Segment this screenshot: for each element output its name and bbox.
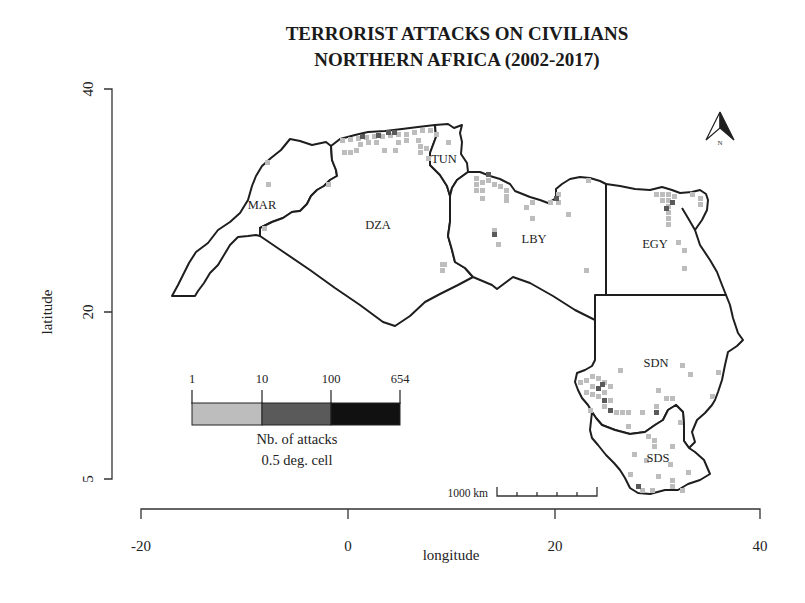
x-tick-0: 0 bbox=[344, 538, 352, 554]
legend-swatch-high bbox=[331, 403, 400, 425]
y-axis-label: latitude bbox=[39, 289, 55, 334]
y-tick-40: 40 bbox=[80, 82, 96, 97]
legend-break-654: 654 bbox=[391, 372, 411, 386]
x-tick-neg20: -20 bbox=[131, 538, 151, 554]
legend-break-10: 10 bbox=[256, 372, 269, 386]
label-lby: LBY bbox=[522, 232, 547, 246]
x-axis-label: longitude bbox=[423, 547, 480, 563]
y-axis: 40 20 5 latitude bbox=[39, 82, 112, 483]
legend-break-1: 1 bbox=[189, 372, 195, 386]
legend: 1 10 100 654 Nb. of attacks 0.5 deg. cel… bbox=[189, 372, 410, 468]
scale-bar: 1000 km bbox=[447, 487, 597, 499]
y-tick-5: 5 bbox=[80, 475, 96, 483]
north-label: N bbox=[717, 139, 722, 147]
label-egy: EGY bbox=[642, 237, 668, 251]
x-tick-40: 40 bbox=[753, 538, 768, 554]
x-axis: -20 0 20 40 longitude bbox=[131, 509, 768, 563]
map-figure: TERRORIST ATTACKS ON CIVILIANS NORTHERN … bbox=[0, 0, 805, 603]
legend-swatch-low bbox=[192, 403, 262, 425]
north-arrow-icon: N bbox=[706, 112, 734, 147]
label-dza: DZA bbox=[365, 218, 391, 232]
y-tick-20: 20 bbox=[80, 305, 96, 320]
chart-title: TERRORIST ATTACKS ON CIVILIANS bbox=[286, 23, 629, 44]
country-libya bbox=[448, 172, 606, 320]
legend-title: Nb. of attacks bbox=[257, 431, 338, 447]
label-sds: SDS bbox=[647, 451, 670, 465]
label-mar: MAR bbox=[248, 198, 277, 212]
x-tick-20: 20 bbox=[548, 538, 563, 554]
legend-subtitle: 0.5 deg. cell bbox=[262, 452, 333, 468]
label-sdn: SDN bbox=[643, 356, 668, 370]
chart-subtitle: NORTHERN AFRICA (2002-2017) bbox=[314, 49, 599, 71]
legend-swatch-mid bbox=[262, 403, 331, 425]
scale-bar-label: 1000 km bbox=[447, 487, 488, 499]
legend-break-100: 100 bbox=[322, 372, 341, 386]
label-tun: TUN bbox=[431, 152, 457, 166]
